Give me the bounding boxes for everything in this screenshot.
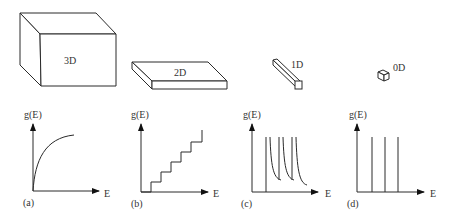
- label-3d: 3D: [64, 55, 76, 66]
- label-1d: 1D: [291, 59, 303, 70]
- xlabel-c: E: [325, 188, 331, 199]
- dot-0d: 0D: [378, 62, 405, 81]
- dos-diagram: 3D 2D 1D 0D g(E) E (a) g(E) E (b): [0, 0, 454, 224]
- xlabel-d: E: [430, 188, 436, 199]
- plot-d: g(E) E (d): [347, 109, 436, 210]
- cube-3d: 3D: [20, 13, 116, 86]
- panel-b: (b): [131, 198, 143, 210]
- panel-d: (d): [347, 198, 359, 210]
- ylabel-a: g(E): [24, 109, 42, 121]
- slab-2d: 2D: [132, 62, 227, 89]
- ylabel-b: g(E): [131, 109, 149, 121]
- wire-1d: 1D: [273, 59, 303, 89]
- plot-a: g(E) E (a): [23, 109, 110, 209]
- plot-c: g(E) E (c): [241, 109, 331, 210]
- xlabel-b: E: [213, 188, 219, 199]
- label-0d: 0D: [393, 62, 405, 73]
- panel-c: (c): [241, 198, 252, 210]
- panel-a: (a): [23, 197, 34, 209]
- ylabel-d: g(E): [349, 109, 367, 121]
- ylabel-c: g(E): [243, 109, 261, 121]
- label-2d: 2D: [174, 67, 186, 78]
- plot-b: g(E) E (b): [131, 109, 219, 210]
- xlabel-a: E: [104, 188, 110, 199]
